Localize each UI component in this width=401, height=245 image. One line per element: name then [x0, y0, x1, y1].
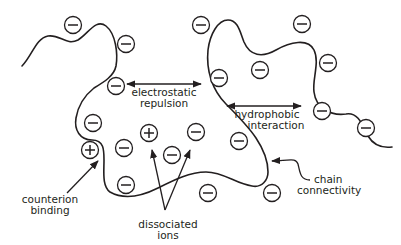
negative-ion-icon [200, 185, 217, 202]
negative-ion-icon [193, 17, 210, 34]
negative-ion-icon [294, 16, 311, 33]
negative-ion-icon [264, 185, 281, 202]
negative-ion-icon [320, 55, 337, 72]
dissociated-arrow-left [152, 150, 165, 210]
negative-ion-icon [252, 62, 269, 79]
negative-ion-icon [118, 177, 135, 194]
negative-ion-icon [116, 140, 133, 157]
chain-label-2: connectivity [297, 184, 361, 196]
negative-ion-icon [85, 115, 102, 132]
negative-ion-icon [108, 78, 125, 95]
counterion-label-2: binding [30, 204, 69, 216]
polymer-chain-left [22, 20, 392, 196]
negative-ion-icon [314, 103, 331, 120]
negative-ion-icon [358, 120, 375, 137]
negative-ion-icon [118, 36, 135, 53]
polyelectrolyte-diagram: electrostatic repulsion hydrophobic inte… [0, 0, 401, 245]
negative-ion-icon [231, 133, 248, 150]
dissociated-label-2: ions [157, 229, 178, 241]
electrostatic-label-2: repulsion [140, 97, 188, 109]
counterion-arrow [67, 161, 98, 193]
positive-ion-icon [141, 125, 158, 142]
negative-ion-icon [164, 147, 181, 164]
negative-ion-icon [65, 17, 82, 34]
chain-connectivity-arrow [272, 160, 310, 180]
hydrophobic-label-2: interaction [248, 119, 305, 131]
positive-ion-icon [82, 142, 99, 159]
negative-ion-icon [211, 70, 228, 87]
negative-ion-icon [188, 124, 205, 141]
